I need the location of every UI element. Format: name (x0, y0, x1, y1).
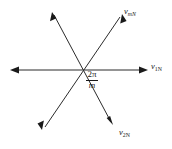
angle-numerator: 2π (86, 70, 97, 80)
label-v1n: v1N (151, 62, 162, 71)
arrowhead-right-v1n (139, 67, 148, 74)
arrowhead-left (10, 67, 19, 74)
angle-denominator: m (88, 81, 97, 91)
label-vmn: vmN (124, 7, 136, 16)
arrowhead-lower-left (38, 121, 44, 130)
arrowhead-lower-right-v2n (107, 116, 113, 125)
label-v2n: v2N (119, 128, 130, 137)
spoke-diagonal-nw-se (54, 15, 111, 122)
phasor-star-figure: v1N vmN v2N 2π m (0, 0, 172, 149)
label-v2n-subscript: 2N (123, 132, 130, 138)
spoke-diagonal-ne-sw (45, 17, 120, 127)
label-v1n-subscript: 1N (155, 66, 162, 72)
label-vmn-subscript: mN (128, 11, 136, 17)
angle-annotation-2pi-over-m: 2π m (86, 70, 98, 90)
